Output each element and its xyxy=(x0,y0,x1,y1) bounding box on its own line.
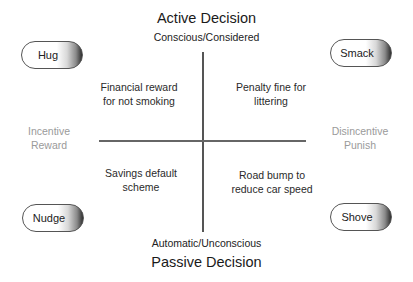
hug-pill: Hug xyxy=(21,41,83,69)
left-axis-label: Incentive Reward xyxy=(14,124,84,152)
horizontal-axis xyxy=(99,140,306,142)
vertical-axis xyxy=(202,52,204,232)
quadrant-bottom-left-line1: Savings default xyxy=(90,166,192,180)
right-axis-label-line1: Disincentive xyxy=(320,124,400,138)
right-axis-label: Disincentive Punish xyxy=(320,124,400,152)
quadrant-top-right-line2: littering xyxy=(219,94,323,108)
bottom-axis-subtitle: Automatic/Unconscious xyxy=(0,237,413,249)
left-axis-label-line2: Reward xyxy=(14,138,84,152)
nudge-pill: Nudge xyxy=(22,204,84,232)
quadrant-top-left-line2: for not smoking xyxy=(88,94,190,108)
quadrant-bottom-right-line1: Road bump to xyxy=(216,168,328,182)
shove-pill-label: Shove xyxy=(341,211,372,223)
smack-pill: Smack xyxy=(330,39,392,67)
smack-pill-label: Smack xyxy=(340,47,374,59)
quadrant-bottom-right-text: Road bump to reduce car speed xyxy=(216,168,328,196)
nudge-pill-label: Nudge xyxy=(33,212,65,224)
quadrant-bottom-left-line2: scheme xyxy=(90,180,192,194)
shove-pill: Shove xyxy=(330,203,392,231)
quadrant-top-right-line1: Penalty fine for xyxy=(219,80,323,94)
bottom-axis-title: Passive Decision xyxy=(0,254,413,270)
hug-pill-label: Hug xyxy=(38,49,58,61)
quadrant-top-left-text: Financial reward for not smoking xyxy=(88,80,190,108)
quadrant-top-left-line1: Financial reward xyxy=(88,80,190,94)
quadrant-bottom-left-text: Savings default scheme xyxy=(90,166,192,194)
quadrant-top-right-text: Penalty fine for littering xyxy=(219,80,323,108)
quadrant-bottom-right-line2: reduce car speed xyxy=(216,182,328,196)
right-axis-label-line2: Punish xyxy=(320,138,400,152)
top-axis-title: Active Decision xyxy=(0,10,413,26)
left-axis-label-line1: Incentive xyxy=(14,124,84,138)
